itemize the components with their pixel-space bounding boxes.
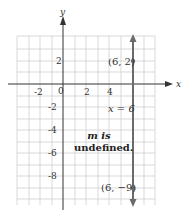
slope-note: m is undefined. (74, 130, 124, 153)
x-tick: -2 (34, 88, 43, 97)
slope-note-line1: m is (87, 130, 111, 141)
slope-note-line2: undefined. (74, 142, 124, 154)
point-label-top: (6, 2) (108, 57, 135, 67)
y-tick: 2 (56, 57, 62, 66)
x-tick: 2 (84, 88, 90, 97)
x-tick: 0 (58, 87, 64, 96)
y-axis-arrow-icon (60, 16, 66, 25)
point-label-bottom: (6, −9) (101, 183, 136, 193)
y-tick: -2 (48, 103, 57, 112)
y-axis-label: y (60, 8, 65, 17)
x-tick: 4 (107, 88, 113, 97)
y-tick: -4 (48, 126, 57, 135)
y-tick: -8 (48, 172, 57, 181)
coordinate-plane (0, 0, 190, 223)
x-axis-label: x (176, 80, 181, 89)
y-tick: -6 (48, 149, 57, 158)
x-axis-arrow-icon (165, 81, 173, 87)
line-equation-label: x = 6 (108, 104, 135, 114)
